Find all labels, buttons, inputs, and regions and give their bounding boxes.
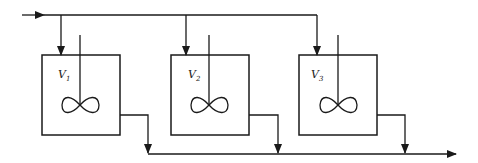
tank-v3: V3 xyxy=(299,35,377,135)
svg-text:V3: V3 xyxy=(311,68,324,83)
reactor-diagram: V1 V2 V3 xyxy=(0,0,478,163)
svg-text:V1: V1 xyxy=(58,68,70,83)
outlet-2 xyxy=(249,115,278,153)
tank-v2: V2 xyxy=(171,35,249,135)
tank-v1: V1 xyxy=(42,35,120,135)
tank-subscript: 1 xyxy=(66,75,70,83)
tank-subscript: 3 xyxy=(319,75,324,83)
outlet-3 xyxy=(377,115,405,153)
tank-subscript: 2 xyxy=(195,75,201,83)
svg-text:V2: V2 xyxy=(188,68,201,83)
outlet-1 xyxy=(120,115,148,153)
